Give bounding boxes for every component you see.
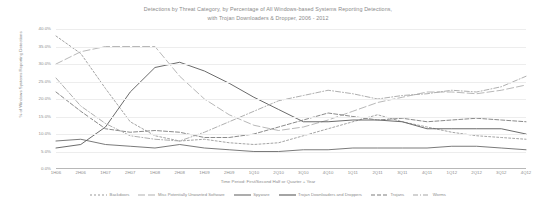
chart-legend: BackdoorsMisc Potentially Unwanted Softw… [0, 192, 536, 197]
gridline [56, 134, 526, 135]
legend-swatch-icon [90, 193, 107, 197]
x-axis-tick-label: 1Q10 [249, 170, 260, 175]
gridline [56, 47, 526, 48]
legend-label: Worms [433, 192, 446, 197]
gridline [56, 82, 526, 83]
x-axis-tick-label: 2H09 [224, 170, 234, 175]
x-axis-tick-label: 2Q10 [273, 170, 284, 175]
legend-item[interactable]: Trojan Downloaders and Droppers [279, 192, 362, 197]
legend-item[interactable]: Backdoors [90, 192, 129, 197]
y-axis-tick-label: 5.0% [41, 149, 51, 153]
x-axis-tick-label: 1H09 [199, 170, 209, 175]
legend-label: Backdoors [110, 192, 130, 197]
legend-swatch-icon [279, 193, 296, 197]
legend-item[interactable]: Trojans [371, 192, 404, 197]
legend-label: Spyware [253, 192, 269, 197]
legend-item[interactable]: Misc Potentially Unwanted Software [138, 192, 224, 197]
y-axis-tick-label: 20.0% [39, 97, 51, 101]
y-axis-tick-label: 0.0% [41, 167, 51, 171]
gridline [56, 99, 526, 100]
x-axis-tick-label: 3Q10 [298, 170, 309, 175]
chart-title-line-2: with Trojan Downloaders & Dropper, 2006 … [0, 14, 536, 23]
y-axis-tick-label: 40.0% [39, 27, 51, 31]
x-axis-tick-label: 4Q10 [323, 170, 334, 175]
x-axis-tick-label: 2H08 [175, 170, 185, 175]
plot-area [56, 29, 526, 169]
legend-swatch-icon [371, 193, 388, 197]
y-axis-tick-label: 10.0% [39, 132, 51, 136]
legend-label: Trojan Downloaders and Droppers [298, 192, 362, 197]
y-axis-tick-label: 15.0% [39, 114, 51, 118]
y-axis-title: % of Windows Systems Reporting Detection… [18, 20, 23, 130]
y-axis-tick-label: 35.0% [39, 44, 51, 48]
gridline [56, 152, 526, 153]
legend-swatch-icon [413, 193, 430, 197]
legend-item[interactable]: Worms [413, 192, 446, 197]
y-axis-tick-label: 25.0% [39, 79, 51, 83]
x-axis-tick-label: 1Q12 [447, 170, 458, 175]
x-axis-tick-label: 2Q12 [471, 170, 482, 175]
gridline [56, 64, 526, 65]
legend-swatch-icon [234, 193, 251, 197]
gridline [56, 117, 526, 118]
chart-title: Detections by Threat Category, by Percen… [0, 5, 536, 22]
gridline [56, 29, 526, 30]
x-axis-tick-label: 4Q11 [422, 170, 432, 175]
y-axis-ticks: 40.0%35.0%30.0%25.0%20.0%15.0%10.0%5.0%0… [0, 29, 54, 169]
y-axis-tick-label: 30.0% [39, 62, 51, 66]
chart-container: Detections by Threat Category, by Percen… [0, 0, 536, 210]
x-axis-tick-label: 2H06 [76, 170, 86, 175]
x-axis-title: Time Period: First/Second Half or Quarte… [0, 179, 536, 184]
x-axis-tick-label: 1Q11 [348, 170, 358, 175]
legend-swatch-icon [138, 193, 155, 197]
x-axis-tick-label: 1H07 [100, 170, 110, 175]
chart-title-line-1: Detections by Threat Category, by Percen… [0, 5, 536, 14]
x-axis-tick-label: 1H06 [51, 170, 61, 175]
legend-item[interactable]: Spyware [234, 192, 270, 197]
legend-label: Misc Potentially Unwanted Software [158, 192, 225, 197]
x-axis-tick-label: 4Q12 [521, 170, 532, 175]
x-axis-tick-label: 3Q12 [496, 170, 507, 175]
x-axis-tick-label: 2H07 [125, 170, 135, 175]
x-axis-tick-label: 3Q11 [397, 170, 407, 175]
legend-label: Trojans [390, 192, 404, 197]
x-axis-tick-label: 1H08 [150, 170, 160, 175]
x-axis-tick-label: 2Q11 [372, 170, 382, 175]
